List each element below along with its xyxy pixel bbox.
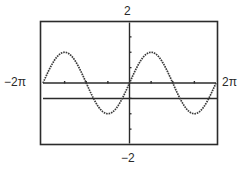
- xmin-label: −2π: [4, 76, 26, 88]
- graph-screen: [0, 0, 244, 174]
- ymin-label: −2: [121, 152, 135, 164]
- ymax-label: 2: [124, 5, 131, 17]
- xmax-label: 2π: [222, 76, 237, 88]
